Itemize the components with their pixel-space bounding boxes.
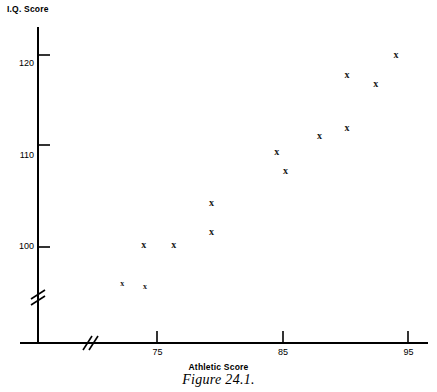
data-point: x	[393, 50, 398, 60]
data-point: x	[209, 198, 214, 208]
data-point: x	[141, 240, 146, 250]
data-point: x	[143, 283, 147, 291]
data-point: x	[345, 123, 350, 133]
data-point: x	[373, 79, 378, 89]
data-point: x	[317, 131, 322, 141]
plot-canvas	[0, 0, 437, 392]
y-tick-label-120: 120	[0, 58, 34, 68]
y-tick-label-110: 110	[0, 150, 34, 160]
x-tick-label-85: 85	[268, 347, 298, 357]
x-tick-label-75: 75	[143, 347, 173, 357]
data-point: x	[209, 227, 214, 237]
data-point: x	[345, 70, 350, 80]
data-point: x	[120, 280, 124, 288]
figure-caption: Figure 24.1.	[0, 372, 437, 388]
y-tick-label-100: 100	[0, 241, 34, 251]
scatter-plot-figure: I.Q. Score xxxxxxxxxxxxx 100110120 75859…	[0, 0, 437, 392]
data-point: x	[274, 147, 279, 157]
x-axis-title: Athletic Score	[0, 362, 437, 372]
data-point: x	[283, 166, 288, 176]
x-tick-label-95: 95	[394, 347, 424, 357]
data-point: x	[171, 240, 176, 250]
